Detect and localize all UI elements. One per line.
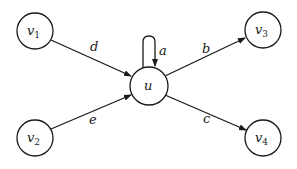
node-v3: v3 [245, 12, 281, 48]
node-u: u [130, 67, 168, 105]
graph-diagram: d e a b c v1 v2 u v3 v4 [0, 0, 297, 169]
node-v1: v1 [17, 13, 53, 49]
node-v4: v4 [245, 120, 281, 156]
edge-label-d: d [90, 39, 98, 54]
edge-label-e: e [89, 112, 97, 127]
node-v2: v2 [17, 120, 53, 156]
edge-label-b: b [202, 41, 210, 56]
edge-label-a: a [159, 43, 167, 58]
svg-text:u: u [144, 78, 152, 93]
edge-label-c: c [203, 111, 211, 126]
edge-u-u-loop [143, 36, 155, 68]
